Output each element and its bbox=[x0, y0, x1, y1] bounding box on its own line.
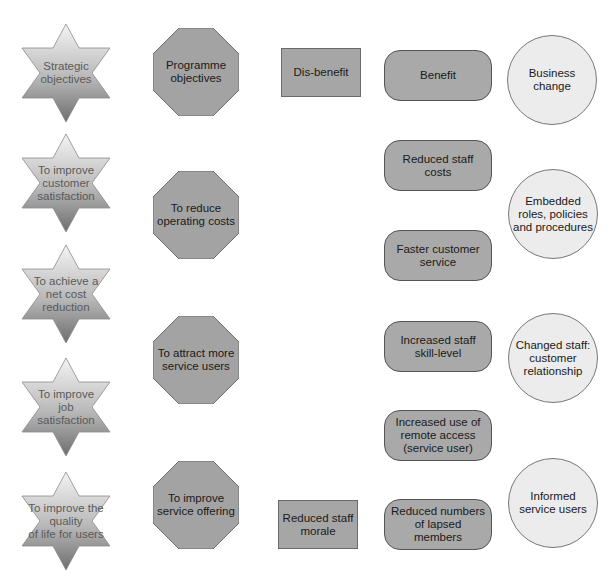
benefit-box: Increased staff skill-level bbox=[384, 321, 492, 372]
legend-benefit-box: Benefit bbox=[384, 50, 492, 101]
strategic-objective-star: To achieve a net cost reduction bbox=[21, 245, 111, 343]
octagon-label: To improve service offering bbox=[153, 461, 239, 549]
circle-label: Business change bbox=[508, 36, 596, 124]
circle-label: Informed service users bbox=[509, 459, 597, 547]
rect-label: Dis-benefit bbox=[282, 49, 360, 96]
benefit-box: Faster customer service bbox=[384, 230, 492, 281]
octagon-label: To attract more service users bbox=[153, 316, 239, 404]
strategic-objective-star: To improve the quality of life for users bbox=[21, 472, 111, 570]
business-change-circle: Informed service users bbox=[508, 458, 598, 548]
star-label: Strategic objectives bbox=[21, 24, 111, 122]
star-label: To improve the quality of life for users bbox=[21, 472, 111, 570]
star-label: To improve job satisfaction bbox=[21, 358, 111, 456]
legend-disbenefit-rect: Dis-benefit bbox=[281, 48, 361, 97]
rounded-label: Increased staff skill-level bbox=[385, 322, 491, 371]
legend-business-change-circle: Business change bbox=[507, 35, 597, 125]
benefit-box: Reduced numbers of lapsed members bbox=[384, 499, 492, 550]
legend-strategic-objectives-star: Strategic objectives bbox=[21, 24, 111, 122]
business-change-circle: Embedded roles, policies and procedures bbox=[508, 169, 598, 259]
programme-objective-octagon: To attract more service users bbox=[153, 316, 239, 404]
octagon-label: To reduce operating costs bbox=[153, 171, 239, 259]
rounded-label: Faster customer service bbox=[385, 231, 491, 280]
star-label: To achieve a net cost reduction bbox=[21, 245, 111, 343]
strategic-objective-star: To improve customer satisfaction bbox=[21, 134, 111, 232]
rounded-label: Reduced staff costs bbox=[385, 141, 491, 190]
circle-label: Embedded roles, policies and procedures bbox=[509, 170, 597, 258]
star-label: To improve customer satisfaction bbox=[21, 134, 111, 232]
legend-programme-objectives-octagon: Programme objectives bbox=[153, 28, 239, 116]
business-change-circle: Changed staff: customer relationship bbox=[508, 313, 598, 403]
programme-objective-octagon: To improve service offering bbox=[153, 461, 239, 549]
octagon-label: Programme objectives bbox=[153, 28, 239, 116]
rounded-label: Increased use of remote access (service … bbox=[385, 411, 491, 460]
benefit-box: Increased use of remote access (service … bbox=[384, 410, 492, 461]
programme-objective-octagon: To reduce operating costs bbox=[153, 171, 239, 259]
rounded-label: Benefit bbox=[385, 51, 491, 100]
benefit-box: Reduced staff costs bbox=[384, 140, 492, 191]
rect-label: Reduced staff morale bbox=[279, 501, 357, 548]
strategic-objective-star: To improve job satisfaction bbox=[21, 358, 111, 456]
disbenefit-rect: Reduced staff morale bbox=[278, 500, 358, 549]
circle-label: Changed staff: customer relationship bbox=[509, 314, 597, 402]
rounded-label: Reduced numbers of lapsed members bbox=[385, 500, 491, 549]
